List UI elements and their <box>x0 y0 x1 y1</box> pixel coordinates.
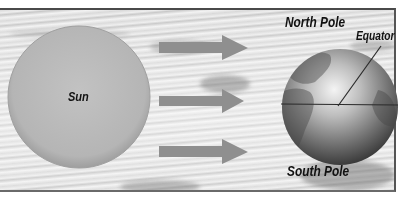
arrow-bottom <box>159 139 248 164</box>
label-equator: Equator <box>356 29 395 43</box>
arrow-top <box>159 35 248 60</box>
sunlight-arrows <box>159 35 248 164</box>
label-sun: Sun <box>68 89 89 104</box>
earth-globe <box>278 49 398 165</box>
label-south-pole: South Pole <box>287 163 349 179</box>
arrow-middle <box>159 89 244 113</box>
label-north-pole: North Pole <box>285 14 345 30</box>
